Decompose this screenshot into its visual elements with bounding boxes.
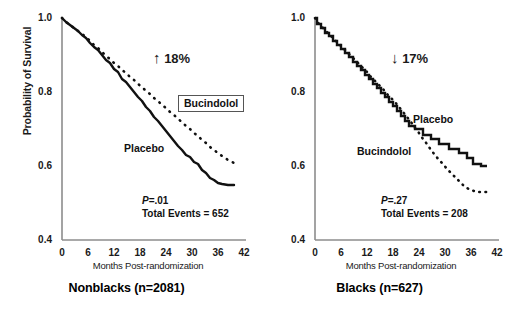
y-tick-0-4-r: 0.4 xyxy=(281,234,305,245)
panel-title-nonblacks: Nonblacks (n=2081) xyxy=(0,281,253,295)
curve-label-placebo: Placebo xyxy=(124,142,164,154)
x-tick-24: 24 xyxy=(156,247,176,258)
x-tick-24-r: 24 xyxy=(409,247,429,258)
x-tick-30-r: 30 xyxy=(435,247,455,258)
x-tick-18-r: 18 xyxy=(383,247,403,258)
p-number-r: =.27 xyxy=(388,195,408,206)
y-tick-1-0: 1.0 xyxy=(28,12,52,23)
x-tick-42: 42 xyxy=(234,247,254,258)
y-tick-0-6: 0.6 xyxy=(28,160,52,171)
curve-bucindolol-blacks xyxy=(315,18,487,192)
curve-placebo-blacks xyxy=(315,18,487,166)
curve-label-placebo-r: Placebo xyxy=(413,113,453,125)
effect-annotation-nonblacks: ↑ 18% xyxy=(153,49,190,66)
y-tick-0-6-r: 0.6 xyxy=(281,160,305,171)
p-value-nonblacks: P=.01 xyxy=(142,194,168,207)
y-tick-0-4: 0.4 xyxy=(28,234,52,245)
survival-curve-figure: Probability of Survival 1.0 0.8 0.6 0.4 … xyxy=(0,0,506,313)
p-italic: P xyxy=(142,195,149,206)
effect-value: 18% xyxy=(164,51,190,66)
p-number: =.01 xyxy=(149,195,169,206)
x-axis-title: Months Post-randomization xyxy=(48,260,248,271)
x-tick-42-r: 42 xyxy=(487,247,506,258)
x-tick-36-r: 36 xyxy=(461,247,481,258)
x-tick-36: 36 xyxy=(208,247,228,258)
total-events-nonblacks: Total Events = 652 xyxy=(142,207,229,220)
down-arrow-icon: ↓ xyxy=(391,49,399,66)
p-italic-r: P xyxy=(381,195,388,206)
effect-annotation-blacks: ↓ 17% xyxy=(391,49,428,66)
panel-blacks: 1.0 0.8 0.6 0.4 ↓ 17% Placebo Bucindolol… xyxy=(253,0,506,313)
y-tick-0-8-r: 0.8 xyxy=(281,86,305,97)
effect-value-r: 17% xyxy=(402,51,428,66)
y-axis-title: Probability of Survival xyxy=(21,0,33,166)
x-tick-12: 12 xyxy=(104,247,124,258)
panel-nonblacks: Probability of Survival 1.0 0.8 0.6 0.4 … xyxy=(0,0,253,313)
curve-label-bucindolol-r: Bucindolol xyxy=(357,145,411,157)
x-tick-6-r: 6 xyxy=(331,247,351,258)
y-tick-1-0-r: 1.0 xyxy=(281,12,305,23)
x-tick-6: 6 xyxy=(78,247,98,258)
x-axis-title-r: Months Post-randomization xyxy=(301,260,501,271)
total-events-blacks: Total Events = 208 xyxy=(381,207,468,220)
y-tick-0-8: 0.8 xyxy=(28,86,52,97)
up-arrow-icon: ↑ xyxy=(153,49,161,66)
curve-label-bucindolol: Bucindolol xyxy=(178,95,244,112)
x-tick-18: 18 xyxy=(130,247,150,258)
panel-title-blacks: Blacks (n=627) xyxy=(253,281,506,295)
p-value-blacks: P=.27 xyxy=(381,194,407,207)
x-tick-0-r: 0 xyxy=(305,247,325,258)
x-tick-12-r: 12 xyxy=(357,247,377,258)
x-tick-0: 0 xyxy=(52,247,72,258)
x-tick-30: 30 xyxy=(182,247,202,258)
